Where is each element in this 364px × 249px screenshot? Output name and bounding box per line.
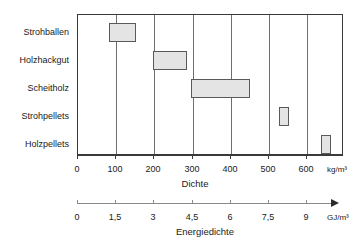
range-bar-scheitholz[interactable]: [191, 79, 250, 98]
secondary-ticklabel-3: 3: [138, 212, 168, 222]
secondary-tick-4-5: [192, 200, 193, 203]
secondary-ticklabel-9: 9: [291, 212, 321, 222]
secondary-axis-line: [77, 203, 333, 204]
secondary-ticklabel-7-5: 7,5: [253, 212, 283, 222]
primary-tick-0: [77, 155, 78, 159]
primary-ticklabel-500: 500: [253, 164, 283, 174]
range-bar-holzhackgut[interactable]: [153, 51, 187, 70]
gridline-200: [154, 15, 155, 154]
primary-ticklabel-600: 600: [291, 164, 321, 174]
plot-area: [77, 14, 343, 155]
secondary-tick-3: [153, 200, 154, 203]
category-label-scheitholz: Scheitholz: [27, 83, 69, 93]
category-label-holzpellets: Holzpellets: [25, 139, 69, 149]
gridline-600: [307, 15, 308, 154]
category-axis-labels: Strohballen Holzhackgut Scheitholz Stroh…: [0, 14, 73, 155]
category-label-strohballen: Strohballen: [23, 27, 69, 37]
secondary-tick-1-5: [115, 200, 116, 203]
chart-container: Strohballen Holzhackgut Scheitholz Stroh…: [0, 0, 364, 249]
primary-tick-600: [306, 155, 307, 159]
range-bar-holzpellets[interactable]: [321, 135, 331, 154]
primary-tick-300: [192, 155, 193, 159]
secondary-tick-9: [306, 200, 307, 203]
secondary-ticklabel-1-5: 1,5: [100, 212, 130, 222]
primary-tick-500: [268, 155, 269, 159]
secondary-tick-0: [77, 200, 78, 203]
category-label-strohpellets: Strohpellets: [21, 111, 69, 121]
primary-axis-title: Dichte: [145, 178, 245, 189]
secondary-tick-6: [230, 200, 231, 203]
secondary-axis-arrow-icon: [331, 199, 339, 207]
primary-axis-unit: kg/m³: [327, 165, 347, 175]
secondary-ticklabel-4-5: 4,5: [177, 212, 207, 222]
range-bar-strohballen[interactable]: [109, 23, 136, 42]
secondary-ticklabel-0: 0: [62, 212, 92, 222]
gridline-500: [269, 15, 270, 154]
primary-ticklabel-300: 300: [177, 164, 207, 174]
primary-tick-400: [230, 155, 231, 159]
secondary-tick-7-5: [268, 200, 269, 203]
primary-ticklabel-400: 400: [215, 164, 245, 174]
primary-ticklabel-200: 200: [138, 164, 168, 174]
range-bar-strohpellets[interactable]: [279, 107, 289, 126]
secondary-axis-title: Energiedichte: [150, 226, 260, 237]
category-label-holzhackgut: Holzhackgut: [19, 55, 69, 65]
primary-ticklabel-0: 0: [62, 164, 92, 174]
secondary-axis-unit: GJ/m³: [327, 213, 349, 223]
primary-tick-200: [153, 155, 154, 159]
primary-axis-line: [77, 155, 343, 156]
primary-ticklabel-100: 100: [100, 164, 130, 174]
secondary-ticklabel-6: 6: [215, 212, 245, 222]
primary-tick-100: [115, 155, 116, 159]
